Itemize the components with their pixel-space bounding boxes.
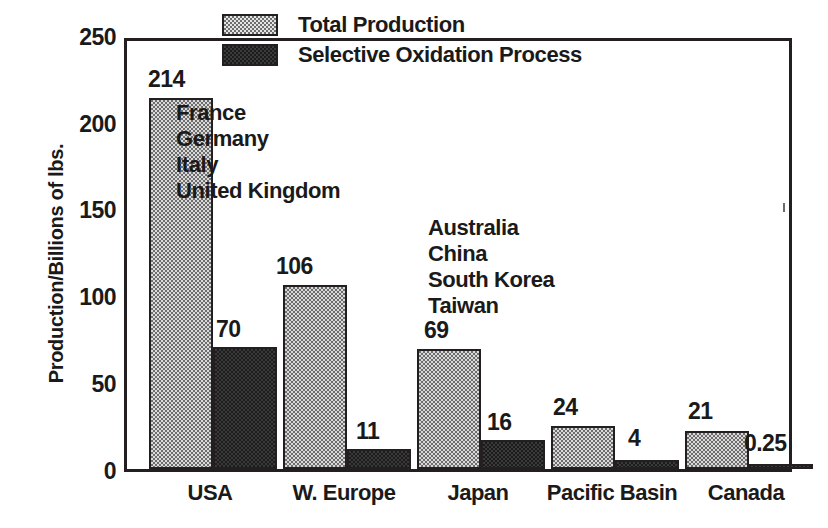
value-label-japan-total: 69: [424, 319, 448, 342]
legend-label-total-production: Total Production: [298, 12, 465, 38]
annotation-europe-line-1: France: [176, 100, 340, 126]
x-tick-canada: Canada: [708, 480, 784, 506]
annotation-europe-line-3: Italy: [176, 152, 340, 178]
x-tick-japan: Japan: [447, 480, 508, 506]
annotation-europe-line-2: Germany: [176, 126, 340, 152]
legend-item-selective-oxidation: Selective Oxidation Process: [222, 40, 582, 70]
value-label-weurope-total: 106: [276, 255, 313, 278]
y-tick-200: 200: [58, 113, 116, 136]
bar-pacific-selective-oxidation: [615, 460, 679, 469]
value-label-weurope-selective-oxidation: 11: [356, 420, 379, 443]
bar-weurope-selective-oxidation: [347, 449, 411, 469]
bar-japan-selective-oxidation: [481, 440, 545, 469]
legend-item-total-production: Total Production: [222, 10, 582, 40]
value-label-usa-total: 214: [148, 68, 185, 91]
y-tick-100: 100: [58, 286, 116, 309]
annotation-pacific-line-1: Australia: [428, 215, 554, 241]
value-label-pacific-total: 24: [553, 396, 577, 419]
axis-tick-artifact: [783, 203, 785, 212]
value-label-pacific-selective-oxidation: 4: [628, 427, 640, 450]
legend-label-selective-oxidation: Selective Oxidation Process: [298, 42, 582, 68]
x-tick-pacific: Pacific Basin: [547, 480, 677, 506]
bar-usa-selective-oxidation: [213, 347, 277, 469]
x-tick-weurope: W. Europe: [292, 480, 395, 506]
bar-chart-figure: Production/Billions of lbs. 250 200 150 …: [0, 0, 828, 528]
annotation-europe-countries: France Germany Italy United Kingdom: [176, 100, 340, 204]
bar-canada-selective-oxidation: [749, 464, 813, 469]
y-axis-tick-labels: 250 200 150 100 50 0: [54, 0, 116, 528]
bar-pacific-total: [551, 426, 615, 469]
value-label-japan-selective-oxidation: 16: [487, 411, 511, 434]
bar-weurope-total: [283, 285, 347, 469]
value-label-canada-total: 21: [688, 400, 712, 423]
x-tick-usa: USA: [188, 480, 233, 506]
bar-canada-total: [685, 431, 749, 469]
y-tick-0: 0: [58, 460, 116, 483]
y-tick-50: 50: [58, 373, 116, 396]
chart-legend: Total Production Selective Oxidation Pro…: [222, 10, 582, 70]
value-label-canada-selective-oxidation: 0.25: [744, 432, 786, 455]
y-tick-250: 250: [58, 26, 116, 49]
bar-japan-total: [417, 349, 481, 469]
annotation-europe-line-4: United Kingdom: [176, 178, 340, 204]
annotation-pacific-line-4: Taiwan: [428, 293, 554, 319]
legend-swatch-total-production-icon: [222, 14, 278, 36]
legend-swatch-selective-oxidation-icon: [222, 44, 278, 66]
value-label-usa-selective-oxidation: 70: [216, 318, 240, 341]
annotation-pacific-line-2: China: [428, 241, 554, 267]
annotation-pacific-line-3: South Korea: [428, 267, 554, 293]
y-tick-150: 150: [58, 199, 116, 222]
annotation-pacific-countries: Australia China South Korea Taiwan: [428, 215, 554, 319]
